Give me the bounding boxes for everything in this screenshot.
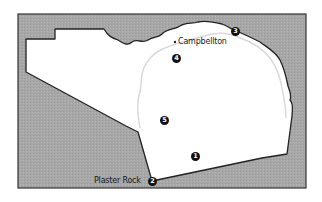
marker-2[interactable]: 2 <box>148 177 157 186</box>
marker-3[interactable]: 3 <box>231 27 240 36</box>
marker-1[interactable]: 1 <box>191 152 200 161</box>
marker-5[interactable]: 5 <box>160 116 169 125</box>
place-label-campbellton: Campbellton <box>178 38 227 46</box>
place-label-plaster-rock: Plaster Rock <box>94 177 141 185</box>
marker-4[interactable]: 4 <box>172 54 181 63</box>
map-canvas <box>0 0 322 202</box>
campbellton-dot <box>174 41 176 43</box>
